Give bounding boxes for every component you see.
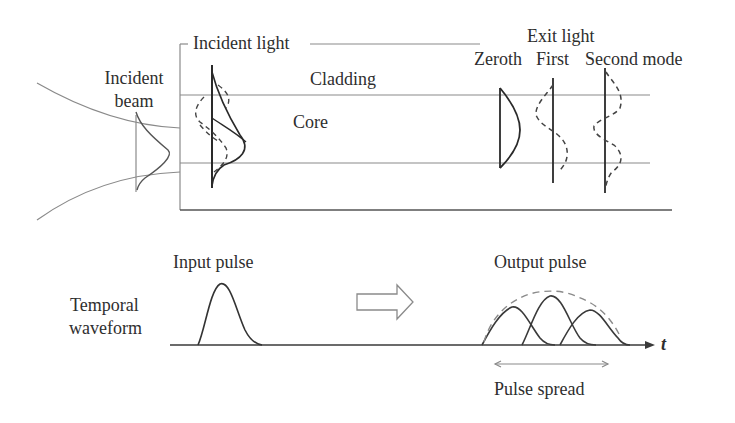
core-label: Core [293, 113, 328, 131]
second-mode-profile [594, 68, 621, 193]
incident-beam-label-line1: Incident [96, 69, 172, 87]
output-envelope-dashed [484, 291, 620, 342]
cladding-label: Cladding [310, 70, 376, 88]
first-mode-label: First [536, 50, 569, 68]
incident-beam-profile [136, 112, 169, 190]
incident-light-label: Incident light [193, 34, 289, 52]
propagation-arrow-icon [357, 285, 413, 319]
zeroth-mode-profile [500, 88, 520, 168]
zeroth-mode-label: Zeroth [474, 50, 522, 68]
exit-light-label: Exit light [527, 27, 595, 45]
pulse-spread-arrow [495, 361, 608, 367]
temporal-waveform-label-line1: Temporal [70, 296, 139, 314]
output-pulse-label: Output pulse [494, 253, 587, 271]
incident-light-modes [196, 65, 246, 188]
input-pulse-waveform [198, 284, 262, 345]
temporal-waveform-label-line2: waveform [69, 319, 142, 337]
pulse-spread-label: Pulse spread [494, 380, 584, 398]
input-pulse-label: Input pulse [173, 253, 254, 271]
first-mode-profile [536, 78, 567, 183]
output-pulse-waveforms [482, 296, 630, 345]
time-axis-arrowhead [645, 341, 655, 349]
incident-beam-label-line2: beam [96, 92, 172, 110]
second-mode-label: Second mode [585, 50, 682, 68]
time-axis-label: t [661, 335, 666, 353]
